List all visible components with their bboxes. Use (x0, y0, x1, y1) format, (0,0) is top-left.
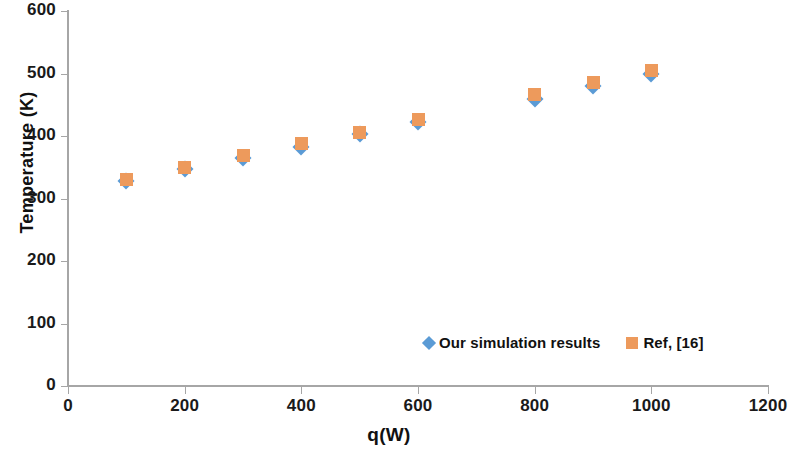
y-axis-tick-label: 500 (0, 63, 56, 83)
y-axis-tick-label: 200 (0, 250, 56, 270)
y-axis-tick (61, 386, 68, 387)
x-axis-tick-label: 0 (28, 396, 108, 416)
x-axis-title: q(W) (0, 424, 778, 446)
x-axis-tick (535, 387, 536, 394)
chart-legend: Our simulation results Ref, [16] (424, 334, 704, 351)
data-point-reference (645, 64, 658, 77)
data-point-reference (120, 173, 133, 186)
data-point-reference (178, 161, 191, 174)
legend-diamond-marker-icon (422, 335, 436, 349)
legend-item-reference[interactable]: Ref, [16] (626, 334, 703, 351)
y-axis-tick (61, 74, 68, 75)
x-axis-tick (301, 387, 302, 394)
y-axis-tick-label: 100 (0, 313, 56, 333)
x-axis-tick (68, 387, 69, 394)
legend-item-simulation[interactable]: Our simulation results (424, 334, 600, 351)
data-point-reference (295, 137, 308, 150)
legend-label-reference: Ref, [16] (643, 334, 703, 351)
y-axis-tick-label: 600 (0, 0, 56, 20)
x-axis-tick (768, 387, 769, 394)
y-axis-tick (61, 11, 68, 12)
data-point-reference (353, 126, 366, 139)
legend-square-marker-icon (626, 337, 638, 349)
y-axis-tick (61, 136, 68, 137)
legend-label-simulation: Our simulation results (439, 334, 600, 351)
data-point-reference (528, 88, 541, 101)
y-axis-tick-label: 300 (0, 188, 56, 208)
y-axis-tick-label: 400 (0, 125, 56, 145)
data-point-reference (412, 113, 425, 126)
x-axis-tick-label: 600 (378, 396, 458, 416)
x-axis-tick (651, 387, 652, 394)
y-axis-tick (61, 261, 68, 262)
y-axis-tick (61, 324, 68, 325)
data-point-reference (587, 76, 600, 89)
x-axis-tick-label: 1000 (611, 396, 691, 416)
data-point-reference (237, 149, 250, 162)
x-axis-tick (185, 387, 186, 394)
plot-area (68, 11, 768, 386)
x-axis-tick-label: 800 (495, 396, 575, 416)
x-axis-tick (418, 387, 419, 394)
x-axis-tick-label: 200 (145, 396, 225, 416)
x-axis-tick-label: 1200 (728, 396, 792, 416)
y-axis-tick (61, 199, 68, 200)
y-axis-tick-label: 0 (0, 375, 56, 395)
x-axis-tick-label: 400 (261, 396, 341, 416)
